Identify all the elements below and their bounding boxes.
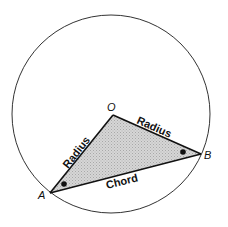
circle-chord-diagram: O A B Radius Radius Chord [0, 0, 228, 227]
angle-marker-b [180, 149, 186, 155]
vertex-label-o: O [107, 101, 116, 113]
angle-marker-a [61, 181, 67, 187]
vertex-label-a: A [37, 189, 45, 201]
vertex-label-b: B [204, 149, 211, 161]
